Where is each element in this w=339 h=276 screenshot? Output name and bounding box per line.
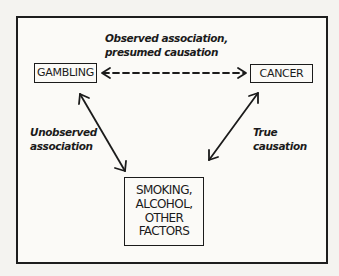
edge-label-line: association [30,139,97,153]
edge-label-observed-association: Observed association, presumed causation [105,31,228,59]
edge-label-line: Observed association, [105,31,228,45]
edge-label-line: Unobserved [30,125,97,139]
node-cancer: CANCER [250,64,313,83]
edge-label-line: presumed causation [105,45,228,59]
node-label: CANCER [260,68,304,80]
edge-label-line: True [253,125,307,139]
edge-label-unobserved-association: Unobserved association [30,125,97,153]
node-confounding-factors: SMOKING, ALCOHOL, OTHER FACTORS [124,177,204,246]
node-label-line: SMOKING, [136,184,192,198]
edge-label-true-causation: True causation [253,125,307,153]
node-label-line: ALCOHOL, [136,198,193,212]
node-label-line: FACTORS [139,225,190,239]
node-label: GAMBLING [37,67,94,79]
edge-label-line: causation [253,139,307,153]
node-label-line: OTHER [145,212,184,226]
node-gambling: GAMBLING [34,63,97,83]
